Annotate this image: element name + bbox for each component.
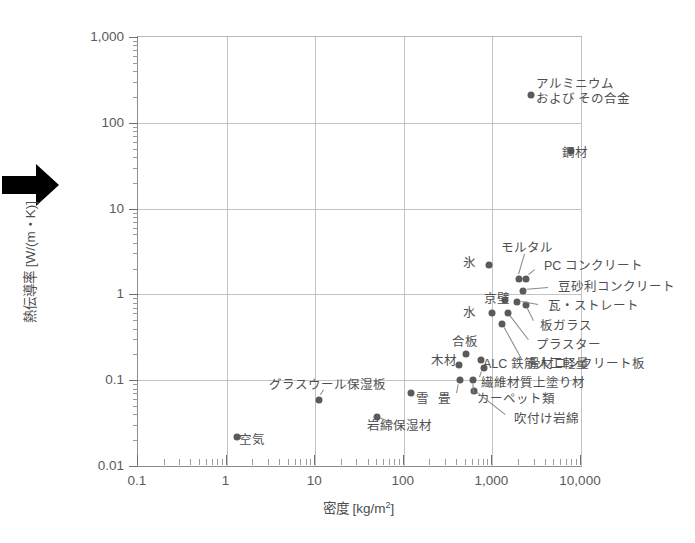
y-tick-minor (133, 157, 138, 158)
data-point (516, 276, 523, 283)
point-label-line: 氷 (463, 256, 476, 271)
x-tick-label: 10 (307, 473, 322, 488)
y-tick-minor (133, 320, 138, 321)
point-label: PC コンクリート (544, 259, 643, 274)
x-tick-minor (341, 459, 342, 465)
x-tick-minor (571, 459, 572, 465)
y-tick-label: 100 (101, 114, 124, 129)
point-label: 吹付け岩綿 (514, 412, 579, 427)
y-tick-minor (133, 339, 138, 340)
y-tick-minor (133, 308, 138, 309)
point-label: 岩綿保湿材 (367, 419, 432, 434)
point-label-line: および その合金 (536, 92, 630, 107)
y-tick-label: 1,000 (90, 29, 124, 44)
y-tick-major (129, 294, 138, 295)
point-label: 瓦・ストレート (548, 299, 639, 314)
point-label: 豆砂利コンクリート (558, 280, 675, 295)
y-tick-minor (133, 142, 138, 143)
y-tick-major (129, 123, 138, 124)
gridline-horizontal (138, 294, 581, 295)
x-tick-label: 0.1 (128, 473, 147, 488)
y-tick-minor (133, 82, 138, 83)
point-label-line: 木材 (431, 354, 457, 369)
data-point (462, 351, 469, 358)
point-label: プラスター (536, 338, 601, 353)
point-label-line: 雪 (416, 392, 429, 407)
point-label-line: カーペット類 (477, 392, 555, 407)
y-tick-label: 10 (109, 200, 124, 215)
x-tick-major (314, 455, 315, 465)
point-label-line: 繊維材質上塗り材 (481, 376, 585, 391)
point-label: 板ガラス (540, 319, 592, 334)
point-label-line: 鋼材 (562, 146, 588, 161)
y-tick-major (129, 380, 138, 381)
y-tick-major (129, 466, 138, 467)
data-point (315, 397, 322, 404)
x-tick-label: 10,000 (559, 473, 600, 488)
x-tick-minor (212, 459, 213, 465)
y-tick-minor (133, 50, 138, 51)
point-label-line: モルタル (501, 241, 553, 256)
y-tick-minor (133, 234, 138, 235)
data-point (456, 377, 463, 384)
point-label: 京壁 (484, 292, 510, 307)
x-tick-minor (553, 459, 554, 465)
y-tick-minor (133, 243, 138, 244)
leader-line (472, 384, 474, 393)
y-tick-minor (133, 63, 138, 64)
data-point (486, 262, 493, 269)
x-tick-major (137, 455, 138, 465)
y-tick-minor (133, 71, 138, 72)
x-tick-minor (268, 459, 269, 465)
point-label-line: 豆砂利コンクリート (558, 280, 675, 295)
y-tick-minor (133, 389, 138, 390)
x-tick-minor (487, 459, 488, 465)
x-tick-minor (310, 459, 311, 465)
y-tick-minor (133, 253, 138, 254)
point-label: アルミニウムおよび その合金 (536, 77, 630, 107)
x-tick-minor (288, 459, 289, 465)
x-tick-major (580, 455, 581, 465)
y-tick-minor (133, 269, 138, 270)
x-tick-minor (576, 459, 577, 465)
point-label: 木材 (431, 354, 457, 369)
point-label: 鋼材 (562, 146, 588, 161)
point-label: モルタル (501, 241, 553, 256)
x-tick-major (403, 455, 404, 465)
y-tick-minor (133, 399, 138, 400)
y-tick-minor (133, 168, 138, 169)
point-label-line: 畳 (438, 392, 451, 407)
point-label-line: 板ガラス (540, 319, 592, 334)
point-label-line: 京壁 (484, 292, 510, 307)
data-point (499, 321, 506, 328)
x-tick-minor (206, 459, 207, 465)
y-tick-minor (133, 217, 138, 218)
point-label: 雪 (416, 392, 429, 407)
x-tick-minor (389, 459, 390, 465)
gridline-vertical (227, 37, 228, 466)
y-tick-minor (133, 228, 138, 229)
x-tick-minor (295, 459, 296, 465)
point-label-line: プラスター (536, 338, 601, 353)
y-tick-minor (133, 393, 138, 394)
y-tick-label: 0.1 (105, 372, 124, 387)
x-tick-minor (383, 459, 384, 465)
x-tick-minor (179, 459, 180, 465)
point-label: ALC 鉄筋人工軽量 (483, 357, 589, 372)
x-tick-minor (545, 459, 546, 465)
point-label-line: グラスウール保湿板 (269, 378, 386, 393)
x-tick-minor (199, 459, 200, 465)
x-tick-label: 100 (392, 473, 415, 488)
point-label: グラスウール保湿板 (269, 378, 386, 393)
x-tick-minor (566, 459, 567, 465)
y-tick-label: 1 (116, 286, 124, 301)
y-tick-minor (133, 440, 138, 441)
y-tick-label: 0.01 (98, 458, 124, 473)
x-tick-minor (376, 459, 377, 465)
y-tick-major (129, 209, 138, 210)
y-tick-minor (133, 127, 138, 128)
x-axis-ticks (137, 465, 580, 466)
y-tick-minor (133, 183, 138, 184)
y-tick-minor (133, 384, 138, 385)
point-label-line: 空気 (239, 433, 265, 448)
